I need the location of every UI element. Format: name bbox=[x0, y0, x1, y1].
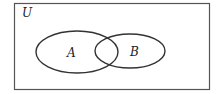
set-b-label: B bbox=[129, 45, 139, 59]
universe-rect bbox=[15, 4, 210, 90]
set-a-ellipse bbox=[36, 31, 118, 73]
venn-diagram: U A B bbox=[0, 0, 223, 94]
universe-label: U bbox=[22, 6, 33, 20]
set-a-label: A bbox=[66, 46, 76, 60]
